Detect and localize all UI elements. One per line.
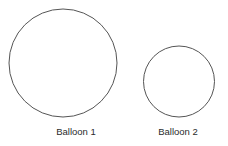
balloon-comparison-figure: Balloon 1 Balloon 2 — [0, 0, 227, 146]
balloon-diagram-canvas — [0, 0, 227, 146]
balloon-2-circle — [144, 46, 215, 117]
balloon-2-label: Balloon 2 — [129, 126, 228, 137]
balloon-1-circle — [9, 9, 117, 117]
